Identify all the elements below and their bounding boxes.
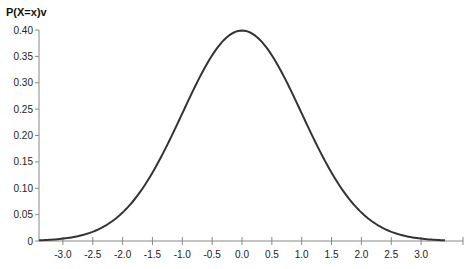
y-tick-label: 0.35: [14, 51, 34, 62]
x-tick-label: 2.5: [384, 249, 398, 260]
x-tick-label: 0.0: [235, 249, 249, 260]
y-tick-label: 0.20: [14, 130, 34, 141]
x-tick-label: 1.0: [295, 249, 309, 260]
x-tick-label: -2.0: [114, 249, 132, 260]
y-tick-label: 0.25: [14, 104, 34, 115]
y-axis-title: P(X=x)v: [6, 6, 48, 18]
x-tick-label: -1.0: [174, 249, 192, 260]
pdf-curve: [39, 31, 445, 241]
y-tick-label: 0.15: [14, 156, 34, 167]
y-tick-label: 0.30: [14, 77, 34, 88]
normal-distribution-chart: P(X=x)v 00.050.100.150.200.250.300.350.4…: [0, 0, 467, 269]
x-axis: -3.0-2.5-2.0-1.5-1.0-0.50.00.51.01.52.02…: [39, 237, 463, 260]
y-axis: 00.050.100.150.200.250.300.350.40: [14, 25, 39, 247]
x-tick-label: -2.5: [84, 249, 102, 260]
y-tick-label: 0: [27, 236, 33, 247]
x-tick-label: -1.5: [144, 249, 162, 260]
y-tick-label: 0.05: [14, 209, 34, 220]
x-tick-label: -0.5: [204, 249, 222, 260]
y-tick-label: 0.40: [14, 25, 34, 36]
x-tick-label: 2.0: [354, 249, 368, 260]
x-tick-label: 3.0: [414, 249, 428, 260]
x-tick-label: 0.5: [265, 249, 279, 260]
x-tick-label: -3.0: [54, 249, 72, 260]
x-tick-label: 1.5: [325, 249, 339, 260]
y-tick-label: 0.10: [14, 183, 34, 194]
